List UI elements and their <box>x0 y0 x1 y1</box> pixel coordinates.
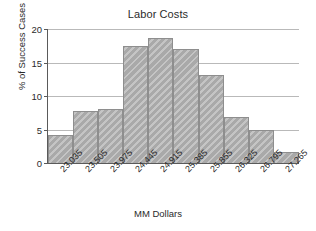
xtick-cell-8: 26.795 <box>248 164 273 208</box>
xtick-cell-2: 23.975 <box>97 164 122 208</box>
ytick-label-5: 5 <box>37 124 42 135</box>
xtick-cell-3: 24.445 <box>122 164 147 208</box>
ytick-label-15: 15 <box>31 57 42 68</box>
xtick-cell-1: 23.505 <box>72 164 97 208</box>
xtick-cell-0: 23.035 <box>47 164 72 208</box>
x-axis-label: MM Dollars <box>0 208 316 219</box>
ytick-label-20: 20 <box>31 24 42 35</box>
bar-3 <box>123 46 148 163</box>
xtick-cell-5: 25.385 <box>172 164 197 208</box>
bar-4 <box>148 38 173 163</box>
y-axis-label: % of Success Cases <box>16 0 27 118</box>
bar-5 <box>173 49 198 163</box>
xtick-cell-9: 27.265 <box>273 164 298 208</box>
xtick-cell-7: 26.325 <box>223 164 248 208</box>
xtick-cell-6: 25.855 <box>198 164 223 208</box>
x-axis-ticks: 23.035 23.505 23.975 24.445 24.915 25.38… <box>47 164 298 208</box>
ytick-label-10: 10 <box>31 91 42 102</box>
bar-series <box>48 29 299 163</box>
chart-figure: Labor Costs % of Success Cases 20 15 10 … <box>0 0 316 231</box>
plot-area: 20 15 10 5 0 <box>47 29 299 164</box>
chart-title: Labor Costs <box>0 8 316 20</box>
xtick-cell-4: 24.915 <box>147 164 172 208</box>
ytick-label-0: 0 <box>37 158 42 169</box>
